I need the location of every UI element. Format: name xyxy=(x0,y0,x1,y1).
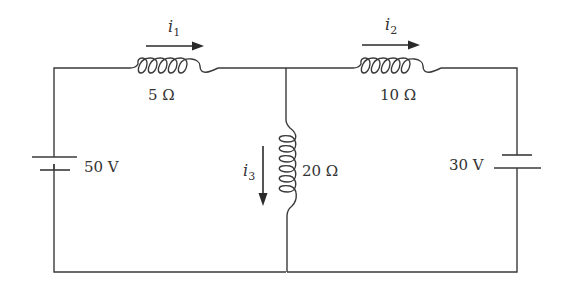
wire-right-top xyxy=(441,68,517,148)
battery-left-label: 50 V xyxy=(84,158,120,176)
inductor-10ohm-coil-icon xyxy=(353,58,441,73)
current-i1-label: i1 xyxy=(168,17,180,39)
inductor-10ohm-label: 10 Ω xyxy=(380,86,416,104)
circuit-diagram: 50 V 5 Ω i1 20 Ω i3 10 Ω i2 xyxy=(0,0,563,282)
middle-branch: 20 Ω i3 xyxy=(243,68,338,272)
battery-right-label: 30 V xyxy=(449,156,485,174)
inductor-20ohm-coil-icon xyxy=(279,120,296,216)
current-i3-label: i3 xyxy=(243,161,255,183)
arrow-head-right-icon xyxy=(192,42,204,51)
inductor-top-right: 10 Ω i2 xyxy=(286,15,517,148)
wire-right-bottom xyxy=(287,168,517,272)
inductor-top-left: 5 Ω i1 xyxy=(130,17,286,104)
current-i2-label: i2 xyxy=(385,15,397,37)
wire-left-top xyxy=(54,68,130,151)
inductor-20ohm-label: 20 Ω xyxy=(302,162,338,180)
inductor-5ohm-label: 5 Ω xyxy=(148,86,175,104)
arrow-head-right-icon xyxy=(408,41,420,50)
arrow-head-down-icon xyxy=(259,193,268,206)
inductor-5ohm-coil-icon xyxy=(130,58,218,73)
